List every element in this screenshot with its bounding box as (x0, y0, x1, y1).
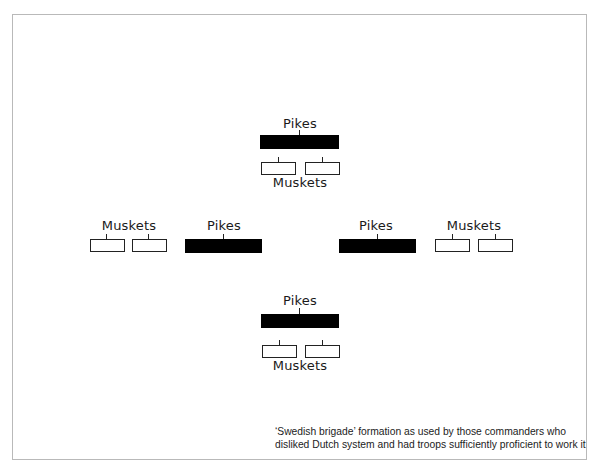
muskets-label-bottom: Muskets (260, 358, 340, 373)
musket-block-bottom-2 (305, 345, 340, 358)
musket-block-left-2 (132, 239, 167, 252)
musket-block-left-1 (90, 239, 125, 252)
pikes-block-right (339, 239, 416, 253)
pikes-label-right: Pikes (346, 218, 406, 233)
muskets-label-right: Muskets (435, 218, 513, 233)
pikes-block-top (260, 135, 339, 149)
musket-block-top-1 (261, 162, 296, 175)
muskets-label-top: Muskets (260, 175, 340, 190)
musket-block-right-2 (478, 239, 513, 252)
pikes-label-left: Pikes (194, 218, 254, 233)
diagram-frame (12, 14, 587, 460)
pikes-label-top: Pikes (270, 116, 330, 131)
musket-block-top-2 (305, 162, 340, 175)
caption-line-2: disliked Dutch system and had troops suf… (275, 438, 586, 451)
pikes-block-left (185, 239, 262, 253)
caption-line-1: ‘Swedish brigade’ formation as used by t… (275, 425, 586, 438)
pikes-label-bottom: Pikes (270, 293, 330, 308)
pikes-block-bottom (261, 314, 339, 328)
musket-block-right-1 (435, 239, 470, 252)
diagram-caption: ‘Swedish brigade’ formation as used by t… (275, 425, 586, 451)
musket-block-bottom-1 (262, 345, 297, 358)
muskets-label-left: Muskets (90, 218, 168, 233)
